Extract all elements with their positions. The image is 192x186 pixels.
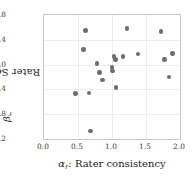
y-tick-label: 0.4 xyxy=(0,34,6,43)
data-point xyxy=(136,52,141,57)
y-tick-label: -0.4 xyxy=(0,84,6,93)
data-point xyxy=(162,57,167,62)
x-axis-label: αr: Rater consistency xyxy=(43,158,181,171)
data-point xyxy=(97,70,102,75)
data-point xyxy=(88,129,93,134)
data-point xyxy=(113,57,118,62)
y-tick-label: -0.8 xyxy=(0,109,6,118)
scatter-plot-figure: βr: Rater Severity 0.80.40.0-0.4-0.8-1.2… xyxy=(0,0,192,186)
data-point xyxy=(125,26,130,31)
gridline-horizontal xyxy=(44,89,180,90)
y-tick-label: -1.2 xyxy=(0,134,6,143)
gridline-vertical xyxy=(146,15,147,139)
data-point xyxy=(159,29,164,34)
data-point xyxy=(83,28,88,33)
x-axis-label-text: : Rater consistency xyxy=(68,158,165,169)
data-point xyxy=(170,51,175,56)
data-point xyxy=(167,75,172,80)
gridline-horizontal xyxy=(44,114,180,115)
gridline-horizontal xyxy=(44,40,180,41)
data-point xyxy=(100,78,105,83)
data-point xyxy=(73,91,78,96)
data-point xyxy=(121,54,126,59)
gridline-vertical xyxy=(78,15,79,139)
data-point xyxy=(87,91,92,96)
y-tick-label: 0.8 xyxy=(0,10,6,19)
plot-area xyxy=(43,14,181,140)
y-axis-label: βr: Rater Severity xyxy=(0,0,17,154)
y-axis-subscript: r xyxy=(9,110,12,118)
gridline-vertical xyxy=(112,15,113,139)
y-tick-label: 0.0 xyxy=(0,59,6,68)
data-point xyxy=(95,61,100,66)
data-point xyxy=(110,69,115,74)
data-point xyxy=(81,47,86,52)
y-axis-label-text: : Rater Severity xyxy=(0,67,47,78)
x-tick-label: 2.0 xyxy=(159,142,192,151)
